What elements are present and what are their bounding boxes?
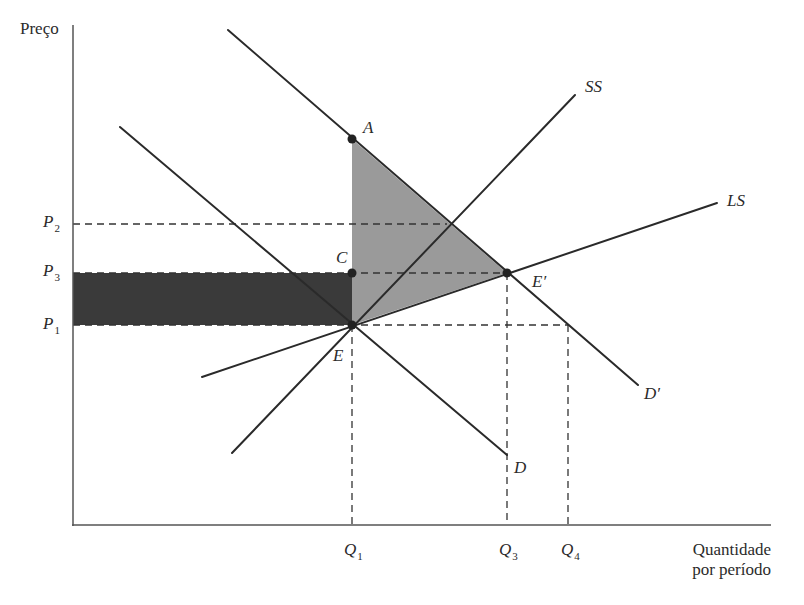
label-point-a: A [363,119,373,136]
tick-p3-sub: 3 [54,271,60,283]
y-axis-title: Preço [20,20,59,37]
tick-q4-main: Q [561,540,573,559]
tick-q1: Q1 [344,541,363,558]
label-point-e-prime: E′ [532,273,546,290]
tick-p1-main: P [43,314,53,333]
tick-q4: Q4 [561,541,580,558]
tick-q1-main: Q [344,540,356,559]
x-axis-title: Quantidade por período [640,540,771,580]
label-curve-d: D [514,459,526,476]
x-axis-title-line2: por período [640,560,771,580]
tick-p2: P2 [43,213,60,230]
chart-canvas [0,0,804,605]
tick-p1: P1 [43,315,60,332]
x-axis-title-line1: Quantidade [640,540,771,560]
point-e-marker [348,321,357,330]
label-curve-ls: LS [727,192,745,209]
tick-p2-sub: 2 [54,222,60,234]
tick-p3-main: P [43,261,53,280]
label-point-e: E [333,347,343,364]
point-a-marker [348,135,357,144]
tick-q3-main: Q [499,540,511,559]
tick-q3-sub: 3 [512,550,518,562]
tick-p3: P3 [43,262,60,279]
point-e-prime-marker [503,269,512,278]
tick-q1-sub: 1 [357,550,363,562]
dark-rectangle-region [73,273,352,325]
tick-q4-sub: 4 [574,550,580,562]
tick-p1-sub: 1 [54,324,60,336]
label-curve-ss: SS [585,78,602,95]
point-c-marker [348,269,357,278]
tick-q3: Q3 [499,541,518,558]
demand-curve-d-prime [228,30,638,385]
label-point-c: C [336,249,347,266]
tick-p2-main: P [43,212,53,231]
label-curve-d-prime: D′ [644,385,660,402]
gray-triangle-region [352,139,507,325]
